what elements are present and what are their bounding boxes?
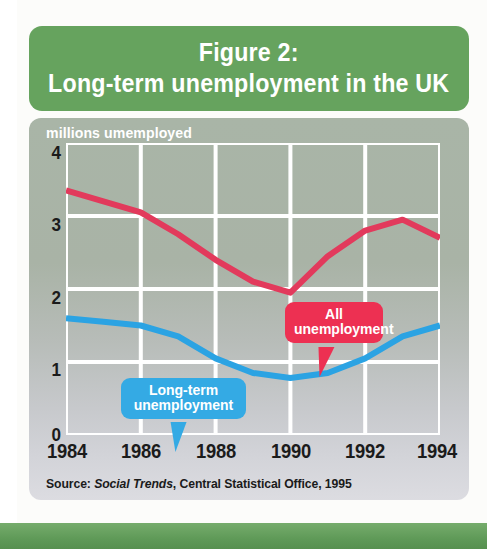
x-tick-1992: 1992 bbox=[337, 440, 392, 463]
y-tick-1: 1 bbox=[38, 359, 61, 381]
x-tick-1984: 1984 bbox=[39, 440, 94, 463]
y-tick-3: 3 bbox=[38, 214, 61, 236]
x-tick-1994: 1994 bbox=[409, 440, 464, 463]
figure-number: Figure 2: bbox=[199, 39, 299, 67]
source-prefix: Source: bbox=[46, 476, 94, 491]
y-tick-4: 4 bbox=[38, 142, 61, 164]
callout-long-tail bbox=[167, 422, 186, 452]
figure-title: Long-term unemployment in the UK bbox=[48, 69, 449, 98]
source-note: Source: Social Trends, Central Statistic… bbox=[46, 476, 352, 491]
figure-title-banner: Figure 2: Long-term unemployment in the … bbox=[29, 26, 469, 111]
y-tick-2: 2 bbox=[38, 287, 61, 309]
x-tick-1986: 1986 bbox=[113, 440, 168, 463]
callout-long-line1: Long-term bbox=[130, 383, 237, 398]
callout-all-unemployment: All unemployment bbox=[285, 302, 383, 343]
x-tick-1988: 1988 bbox=[188, 440, 243, 463]
callout-all-line2: unemployment bbox=[294, 322, 374, 337]
figure-page: Figure 2: Long-term unemployment in the … bbox=[0, 0, 487, 549]
x-tick-1990: 1990 bbox=[263, 440, 318, 463]
callout-long-line2: unemployment bbox=[130, 398, 237, 413]
y-axis-title: millions umemployed bbox=[46, 124, 192, 141]
series-line-all-unemployment bbox=[66, 190, 440, 292]
callout-all-line1: All bbox=[294, 307, 374, 322]
callout-long-term-unemployment: Long-term unemployment bbox=[121, 378, 246, 419]
page-left-margin bbox=[0, 0, 17, 528]
page-bottom-strip bbox=[0, 523, 487, 549]
series-lines bbox=[66, 190, 440, 378]
source-suffix: , Central Statistical Office, 1995 bbox=[173, 476, 352, 491]
chart-panel: millions umemployed 4 3 2 1 0 1984 1986 … bbox=[29, 118, 469, 500]
source-publication: Social Trends bbox=[94, 476, 173, 491]
